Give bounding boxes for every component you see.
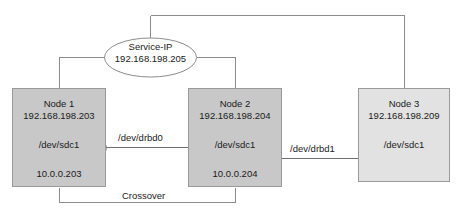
node-box-node-3[interactable]: Node 3 192.168.198.209 /dev/sdc1 — [358, 88, 450, 182]
edge-label-crossover: Crossover — [120, 190, 167, 202]
node-1-device: /dev/sdc1 — [39, 139, 80, 151]
diagram-canvas: Service-IP 192.168.198.205 Node 1 192.16… — [0, 0, 462, 212]
node-box-node-2[interactable]: Node 2 192.168.198.204 /dev/sdc1 10.0.0.… — [188, 88, 282, 187]
edge-label-drbd0: /dev/drbd0 — [116, 132, 165, 144]
service-ip-address: 192.168.198.205 — [95, 53, 206, 65]
node-3-ip: 192.168.198.209 — [368, 110, 439, 122]
node-1-title: Node 1 — [44, 98, 75, 110]
node-2-device: /dev/sdc1 — [215, 139, 256, 151]
node-3-device: /dev/sdc1 — [384, 139, 425, 151]
node-3-title: Node 3 — [389, 98, 420, 110]
service-ip-label-group: Service-IP 192.168.198.205 — [95, 41, 206, 65]
node-2-title: Node 2 — [220, 98, 251, 110]
node-2-ip: 192.168.198.204 — [199, 110, 270, 122]
service-ip-name: Service-IP — [95, 41, 206, 53]
edge-label-drbd1: /dev/drbd1 — [288, 143, 337, 155]
node-1-alt-ip: 10.0.0.203 — [37, 168, 82, 180]
node-1-ip: 192.168.198.203 — [23, 110, 94, 122]
node-2-alt-ip: 10.0.0.204 — [213, 168, 258, 180]
node-box-node-1[interactable]: Node 1 192.168.198.203 /dev/sdc1 10.0.0.… — [12, 88, 106, 187]
